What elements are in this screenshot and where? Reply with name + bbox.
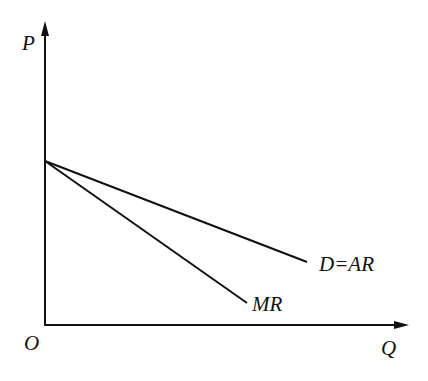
demand-curve-label: D=AR [319, 254, 374, 275]
y-axis-arrow-icon [41, 21, 49, 36]
demand-curve [45, 161, 307, 262]
y-axis-label: P [22, 33, 35, 54]
mr-curve [45, 161, 247, 303]
x-axis-arrow-icon [394, 321, 409, 329]
x-axis-label: Q [381, 338, 396, 359]
mr-curve-label: MR [252, 294, 282, 315]
diagram-canvas: P O Q D=AR MR [0, 0, 428, 381]
diagram-svg [0, 0, 428, 381]
origin-label: O [24, 333, 39, 354]
